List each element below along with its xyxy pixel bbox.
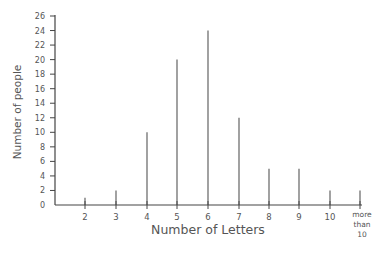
y-tick-label: 6 bbox=[40, 157, 45, 166]
y-tick-label: 4 bbox=[40, 172, 45, 181]
stick-chart: 02468101214161820222426 2345678910 Numbe… bbox=[0, 0, 378, 254]
y-axis-title: Number of people bbox=[11, 65, 23, 160]
x-tick-label-more-than-10: morethan10 bbox=[352, 210, 372, 239]
svg-text:10: 10 bbox=[357, 230, 367, 239]
y-tick-label: 20 bbox=[35, 56, 45, 65]
x-tick-label: 10 bbox=[325, 212, 336, 222]
y-tick-label: 2 bbox=[40, 186, 45, 195]
y-tick-label: 8 bbox=[40, 143, 45, 152]
y-tick-label: 12 bbox=[35, 114, 45, 123]
x-tick-label: 5 bbox=[174, 212, 179, 222]
y-tick-label: 0 bbox=[40, 201, 45, 210]
y-tick-label: 10 bbox=[35, 128, 45, 137]
y-axis-ticks: 02468101214161820222426 bbox=[35, 12, 55, 210]
y-tick-label: 18 bbox=[35, 70, 45, 79]
x-tick-label: 2 bbox=[82, 212, 87, 222]
x-tick-label: 3 bbox=[113, 212, 118, 222]
svg-text:than: than bbox=[353, 220, 370, 229]
y-tick-label: 24 bbox=[35, 27, 45, 36]
x-tick-label: 9 bbox=[296, 212, 301, 222]
svg-text:more: more bbox=[352, 210, 372, 219]
y-tick-label: 26 bbox=[35, 12, 45, 21]
x-tick-label: 6 bbox=[205, 212, 210, 222]
x-tick-label: 4 bbox=[144, 212, 149, 222]
y-tick-label: 16 bbox=[35, 85, 45, 94]
x-axis-title: Number of Letters bbox=[151, 222, 265, 237]
bars bbox=[85, 31, 360, 205]
x-axis-ticks: 2345678910 bbox=[82, 201, 360, 222]
x-tick-label: 7 bbox=[236, 212, 241, 222]
x-tick-label: 8 bbox=[266, 212, 271, 222]
y-tick-label: 14 bbox=[35, 99, 45, 108]
y-tick-label: 22 bbox=[35, 41, 45, 50]
